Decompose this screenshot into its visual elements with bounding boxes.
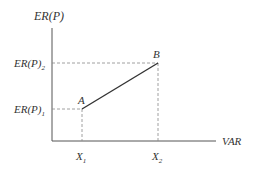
x-tick-x2: X2 (151, 150, 163, 165)
x-tick-x1: X1 (75, 150, 86, 165)
y-axis-label: ER(P) (33, 9, 64, 23)
risk-return-diagram: ER(P) VAR ER(P)2 ER(P)1 X1 X2 A B (0, 0, 255, 171)
y-tick-er1: ER(P)1 (13, 103, 45, 118)
point-a-label: A (77, 94, 85, 106)
point-b-label: B (153, 48, 160, 60)
y-tick-er2: ER(P)2 (13, 57, 45, 72)
segment-ab (82, 63, 158, 109)
x-axis-label: VAR (222, 135, 242, 147)
